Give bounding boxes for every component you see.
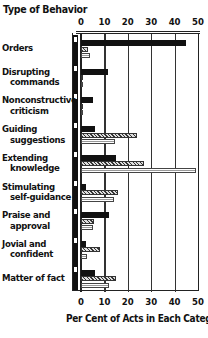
category-label: Stimulatingself-guidance — [2, 182, 71, 203]
bar-light — [81, 254, 87, 259]
bar-hatch — [81, 276, 116, 281]
bar-light — [81, 82, 83, 87]
strip-gap — [74, 37, 77, 42]
bar-black — [81, 155, 116, 161]
chart-frame-top — [76, 31, 200, 34]
strip-gap — [74, 66, 77, 71]
bar-black — [81, 40, 186, 46]
x-tick-bottom-40: 40 — [169, 296, 181, 307]
bar-black — [81, 69, 108, 75]
category-label: Guidingsuggestions — [2, 124, 65, 145]
bar-black — [81, 126, 95, 132]
category-label: Nonconstructivecriticism — [2, 95, 77, 116]
category-label: Extendingknowledge — [2, 153, 60, 174]
group-separator-strip — [73, 35, 78, 290]
bar-hatch — [81, 104, 83, 109]
chart-title: Type of Behavior — [3, 3, 87, 15]
bar-light — [81, 197, 114, 202]
x-tick-bottom-30: 30 — [145, 296, 157, 307]
bar-hatch — [81, 190, 118, 195]
category-label: Praise andapproval — [2, 210, 50, 231]
bar-black — [81, 184, 86, 190]
category-label: Orders — [2, 43, 33, 54]
strip-gap — [74, 123, 77, 128]
x-tick-bottom-20: 20 — [122, 296, 134, 307]
category-label: Matter of fact — [2, 273, 64, 284]
bar-light — [81, 53, 90, 58]
strip-gap — [74, 181, 77, 186]
x-tick-top-10: 10 — [98, 16, 110, 27]
gridline-30 — [151, 34, 152, 292]
bar-light — [81, 283, 109, 288]
bar-light — [81, 110, 83, 115]
bar-black — [81, 97, 93, 103]
bar-hatch — [81, 75, 83, 80]
x-tick-top-40: 40 — [169, 16, 181, 27]
bar-hatch — [81, 47, 88, 52]
x-tick-bottom-0: 0 — [78, 296, 84, 307]
strip-gap — [74, 209, 77, 214]
bar-hatch — [81, 161, 144, 166]
x-tick-top-20: 20 — [122, 16, 134, 27]
bar-black — [81, 270, 95, 276]
strip-gap — [74, 238, 77, 243]
x-axis-label: Per Cent of Acts in Each Category — [66, 313, 208, 324]
gridline-40 — [175, 34, 176, 292]
bar-light — [81, 225, 93, 230]
bar-light — [81, 168, 196, 173]
bar-black — [81, 212, 109, 218]
x-tick-bottom-50: 50 — [192, 296, 204, 307]
x-tick-top-50: 50 — [192, 16, 204, 27]
category-label: Disruptingcommands — [2, 67, 59, 88]
bar-black — [81, 241, 86, 247]
x-tick-top-0: 0 — [78, 16, 84, 27]
bar-hatch — [81, 219, 94, 224]
x-tick-top-30: 30 — [145, 16, 157, 27]
category-label: Jovial andconfident — [2, 239, 53, 260]
strip-gap — [74, 267, 77, 272]
bar-hatch — [81, 133, 137, 138]
bar-hatch — [81, 247, 100, 252]
bar-light — [81, 139, 115, 144]
strip-gap — [74, 152, 77, 157]
x-tick-bottom-10: 10 — [98, 296, 110, 307]
